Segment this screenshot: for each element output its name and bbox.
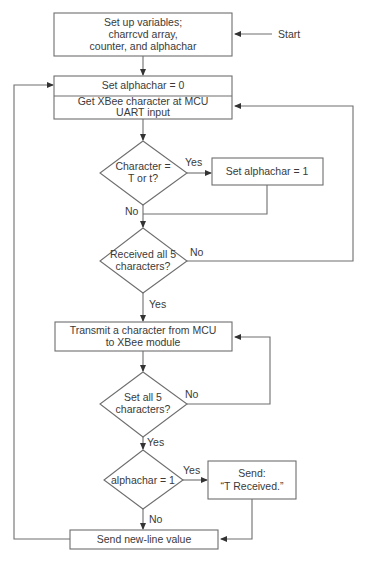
check-alphachar-no-label: No: [149, 513, 163, 525]
setup-line-3: counter, and alphachar: [90, 40, 197, 52]
start-label: Start: [278, 28, 300, 40]
edge-sendrec-to-newline: [221, 499, 252, 539]
node-received-all-decision: Received all 5 characters?: [100, 228, 187, 293]
node-is-t-decision: Character = T or t?: [100, 141, 187, 205]
node-send-received: Send: “T Received.”: [208, 461, 296, 499]
sent-all-line-2: characters?: [116, 403, 171, 415]
flowchart: Start Set up variables; charrcvd array, …: [0, 0, 367, 564]
received-all-line-2: characters?: [116, 260, 171, 272]
sent-all-no-label: No: [185, 388, 199, 400]
setup-line-1: Set up variables;: [104, 16, 182, 28]
check-alphachar-yes-label: Yes: [183, 464, 200, 476]
send-newline-text: Send new-line value: [97, 533, 192, 545]
edge-newline-loop: [14, 85, 70, 539]
sent-all-line-1: Set all 5: [124, 391, 162, 403]
check-alphachar-text: alphachar = 1: [111, 474, 175, 486]
node-reset-and-get-char: Set alphachar = 0 Get XBee character at …: [54, 76, 232, 119]
is-t-line-1: Character =: [115, 160, 170, 172]
is-t-line-2: T or t?: [128, 172, 158, 184]
node-send-newline: Send new-line value: [70, 530, 218, 549]
is-t-no-label: No: [125, 205, 139, 217]
received-all-line-1: Received all 5: [110, 248, 176, 260]
transmit-line-1: Transmit a character from MCU: [70, 324, 217, 336]
transmit-line-2: to XBee module: [106, 336, 181, 348]
send-received-line-1: Send:: [238, 467, 265, 479]
get-char-line-2: UART input: [116, 106, 170, 118]
sent-all-yes-label: Yes: [147, 436, 164, 448]
node-check-alphachar-decision: alphachar = 1: [104, 450, 183, 509]
received-all-no-label: No: [190, 246, 204, 258]
reset-alphachar-text: Set alphachar = 0: [102, 79, 185, 91]
is-t-yes-label: Yes: [185, 156, 202, 168]
node-set-alphachar: Set alphachar = 1: [212, 158, 323, 185]
node-setup: Set up variables; charrcvd array, counte…: [54, 13, 232, 56]
send-received-line-2: “T Received.”: [221, 480, 284, 492]
setup-line-2: charrcvd array,: [108, 28, 177, 40]
received-all-yes-label: Yes: [149, 298, 166, 310]
set-alphachar-text: Set alphachar = 1: [226, 165, 309, 177]
node-sent-all-decision: Set all 5 characters?: [100, 372, 187, 437]
node-transmit: Transmit a character from MCU to XBee mo…: [55, 322, 232, 351]
